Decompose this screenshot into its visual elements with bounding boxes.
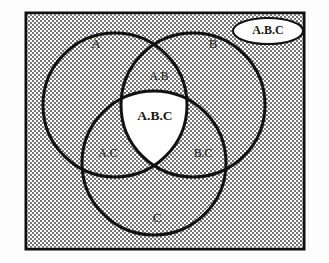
- region-label-c-only: C: [153, 210, 162, 225]
- venn-diagram-figure: A B C A.B A.C B.C A.B.C A.B.C: [0, 0, 329, 263]
- callout-marker: A.B.C: [233, 18, 303, 44]
- callout-label: A.B.C: [252, 23, 283, 37]
- region-label-a-and-b: A.B: [150, 70, 169, 82]
- venn-diagram-canvas: A B C A.B A.C B.C A.B.C A.B.C: [0, 0, 329, 263]
- region-label-a-b-c: A.B.C: [137, 108, 172, 123]
- region-label-b-and-c: B.C: [194, 147, 213, 159]
- region-label-a-only: A: [91, 36, 101, 51]
- region-label-a-and-c: A.C: [99, 147, 118, 159]
- region-label-b-only: B: [209, 36, 218, 51]
